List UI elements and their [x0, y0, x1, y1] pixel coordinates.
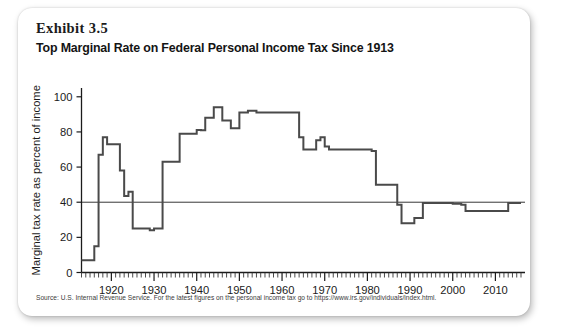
- source-note: Source: U.S. Internal Revenue Service. F…: [36, 294, 436, 301]
- page-title: Top Marginal Rate on Federal Personal In…: [36, 41, 394, 55]
- exhibit-number: Exhibit 3.5: [36, 20, 108, 37]
- exhibit-card: Exhibit 3.5 Top Marginal Rate on Federal…: [18, 8, 530, 316]
